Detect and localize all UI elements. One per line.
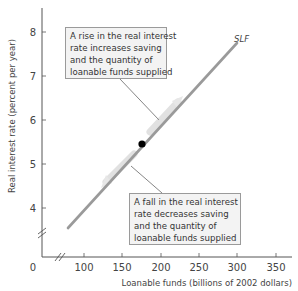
x-axis-title: Loanable funds (billions of 2002 dollars… (122, 278, 292, 288)
x-ticks: 100150200250300350 (74, 253, 285, 273)
x-tick-label: 300 (227, 262, 246, 273)
movement-up-arrow-icon (150, 96, 183, 132)
movement-down-arrow-icon (101, 154, 134, 188)
y-ticks: 87654 (30, 27, 46, 214)
rise-note-line: and the quantity of (70, 54, 162, 66)
x-tick-label: 200 (151, 262, 170, 273)
rise-note-line: loanable funds supplied (70, 66, 162, 78)
y-tick-label: 8 (30, 27, 36, 38)
y-tick-label: 7 (30, 71, 36, 82)
x-tick-label: 150 (112, 262, 131, 273)
fall-note-line: rate decreases saving (134, 208, 236, 220)
origin-label: 0 (30, 262, 36, 273)
data-point (138, 140, 145, 147)
y-tick-label: 5 (30, 159, 36, 170)
x-tick-label: 100 (74, 262, 93, 273)
rise-note-line: A rise in the real interest (70, 30, 162, 42)
fall-annotation-box: A fall in the real interest rate decreas… (129, 193, 241, 245)
y-axis-title: Real interest rate (percent per year) (7, 39, 17, 193)
fall-note-line: and the quantity of (134, 220, 236, 232)
fall-note-line: A fall in the real interest (134, 196, 236, 208)
y-tick-label: 6 (30, 115, 36, 126)
x-tick-label: 350 (266, 262, 285, 273)
y-tick-label: 4 (30, 203, 36, 214)
x-tick-label: 250 (189, 262, 208, 273)
rise-note-line: rate increases saving (70, 42, 162, 54)
slf-curve-label: SLF (234, 34, 249, 44)
rise-leader-line (120, 79, 159, 120)
fall-note-line: loanable funds supplied (134, 232, 236, 244)
fall-leader-line (131, 166, 162, 193)
rise-annotation-box: A rise in the real interest rate increas… (65, 27, 167, 79)
